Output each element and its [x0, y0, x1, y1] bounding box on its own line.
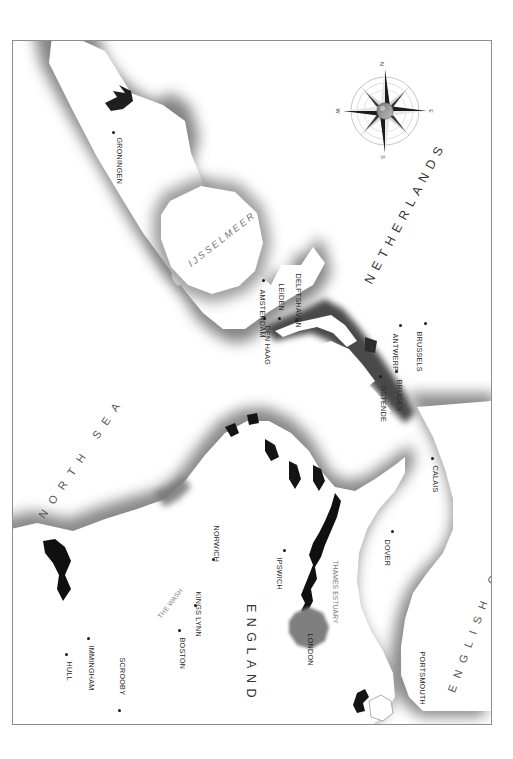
- compass-label-west: W: [335, 108, 341, 113]
- ijsselmeer: [153, 177, 271, 303]
- zeeland-estuaries: [263, 299, 415, 423]
- compass-label-south: S: [380, 155, 386, 159]
- map-page: N E S W NETHERLANDS ENGLAND NORTH SEA EN…: [0, 0, 513, 759]
- belgium-france-coast: [389, 393, 491, 717]
- map-frame: N E S W NETHERLANDS ENGLAND NORTH SEA EN…: [12, 40, 492, 725]
- compass-label-north: N: [379, 62, 385, 66]
- compass-label-east: E: [428, 109, 434, 113]
- compass-rose: N E S W: [333, 59, 437, 163]
- england-landmass: [13, 407, 415, 724]
- compass-rose-graphic: [333, 59, 437, 163]
